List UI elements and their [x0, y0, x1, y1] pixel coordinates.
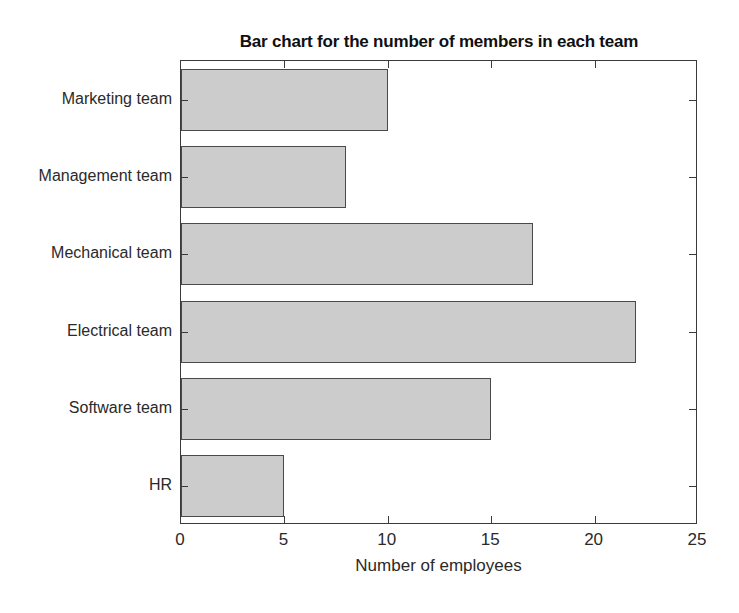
bar-marketing-team [181, 69, 698, 131]
bar-software-team [181, 378, 698, 440]
y-tick-mark [181, 100, 188, 101]
x-tick-mark [491, 516, 492, 523]
y-tick-mark-right [689, 254, 696, 255]
bar-rect [181, 301, 636, 363]
y-tick-mark [181, 409, 188, 410]
bar-rect [181, 378, 491, 440]
x-tick-label: 0 [175, 530, 184, 550]
y-tick-mark-right [689, 100, 696, 101]
x-tick-mark-top [595, 61, 596, 68]
bar-electrical-team [181, 301, 698, 363]
bar-rect [181, 69, 388, 131]
bar-mechanical-team [181, 223, 698, 285]
x-tick-label: 5 [279, 530, 288, 550]
x-tick-mark [284, 516, 285, 523]
x-tick-label: 25 [688, 530, 707, 550]
x-axis-title: Number of employees [180, 556, 697, 576]
plot-area [180, 60, 697, 524]
y-tick-mark-right [689, 409, 696, 410]
x-tick-label: 15 [481, 530, 500, 550]
bar-management-team [181, 146, 698, 208]
x-tick-mark [388, 516, 389, 523]
x-tick-mark-top [388, 61, 389, 68]
y-tick-label: Electrical team [0, 322, 172, 340]
y-tick-mark [181, 332, 188, 333]
y-tick-label: Software team [0, 399, 172, 417]
figure-canvas: Bar chart for the number of members in e… [0, 0, 739, 613]
y-tick-mark-right [689, 177, 696, 178]
y-tick-label: Marketing team [0, 90, 172, 108]
x-tick-mark-top [491, 61, 492, 68]
y-tick-label: Management team [0, 167, 172, 185]
chart-title: Bar chart for the number of members in e… [180, 32, 698, 52]
bar-rect [181, 223, 533, 285]
x-tick-mark [595, 516, 596, 523]
y-tick-mark [181, 486, 188, 487]
y-tick-mark-right [689, 486, 696, 487]
x-tick-label: 20 [584, 530, 603, 550]
x-tick-label: 10 [377, 530, 396, 550]
y-tick-mark [181, 254, 188, 255]
bar-rect [181, 146, 346, 208]
x-tick-mark-top [284, 61, 285, 68]
bar-hr [181, 455, 698, 517]
y-tick-label: Mechanical team [0, 244, 172, 262]
y-tick-label: HR [0, 476, 172, 494]
bar-rect [181, 455, 284, 517]
y-tick-mark [181, 177, 188, 178]
y-tick-mark-right [689, 332, 696, 333]
